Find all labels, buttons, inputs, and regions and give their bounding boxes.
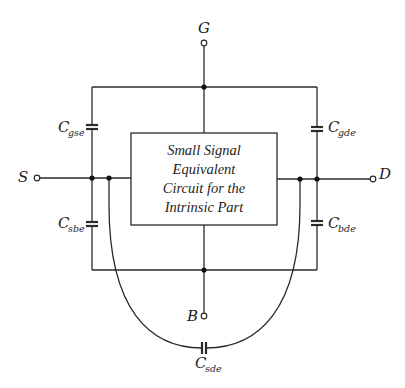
- bulk-terminal: [201, 313, 207, 319]
- cgde-label: C gde: [328, 118, 356, 138]
- junction-dot-source-csde: [106, 175, 111, 180]
- capacitor-cgse-icon: [86, 125, 98, 129]
- junction-dot-bottom: [201, 267, 206, 272]
- bulk-label: B: [186, 307, 198, 325]
- drain-label: D: [378, 165, 391, 183]
- box-line-2: Equivalent: [173, 160, 236, 179]
- svg-text:sbe: sbe: [68, 223, 85, 234]
- box-line-1: Small Signal: [167, 141, 241, 160]
- svg-text:bde: bde: [338, 223, 356, 234]
- capacitor-cbde-icon: [311, 221, 323, 225]
- cgse-label: C gse: [58, 118, 85, 138]
- source-label: S: [18, 168, 28, 186]
- source-terminal: [34, 175, 40, 181]
- box-line-3: Circuit for the: [163, 179, 245, 198]
- junction-dot-drain-csde: [297, 176, 302, 181]
- capacitor-csbe-icon: [86, 222, 98, 226]
- cbde-label: C bde: [328, 214, 356, 234]
- capacitor-csde-icon: [202, 342, 206, 354]
- drain-terminal: [370, 176, 376, 182]
- gate-terminal: [201, 40, 207, 46]
- gate-label: G: [198, 19, 210, 37]
- svg-text:gde: gde: [338, 127, 356, 138]
- intrinsic-box-label: Small Signal Equivalent Circuit for the …: [131, 133, 277, 225]
- capacitor-cgde-icon: [311, 127, 323, 131]
- svg-text:sde: sde: [205, 363, 222, 374]
- csde-label: C sde: [195, 354, 222, 374]
- junction-dot-source-rail: [89, 175, 94, 180]
- junction-dot-top: [201, 84, 206, 89]
- junction-dot-drain-rail: [314, 176, 319, 181]
- csbe-label: C sbe: [58, 214, 85, 234]
- svg-text:gse: gse: [68, 127, 85, 138]
- box-line-4: Intrinsic Part: [165, 198, 244, 217]
